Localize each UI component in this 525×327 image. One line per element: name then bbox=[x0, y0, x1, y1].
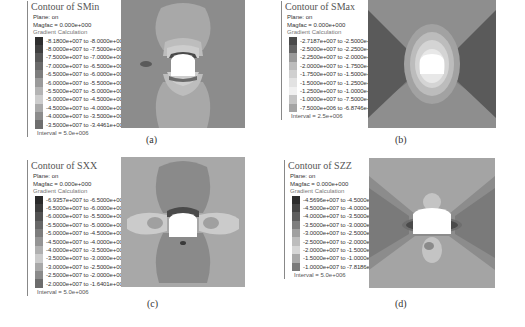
legend-gradient: Gradient Calculation bbox=[31, 29, 123, 37]
legend-gradient: Gradient Calculation bbox=[31, 188, 123, 196]
contour-plot-szz bbox=[369, 158, 495, 288]
legend-range-label: -6.5000e+007 to -6.0000e+007 bbox=[46, 205, 126, 211]
legend-range-label: -2.5000e+007 to -2.0000e+007 bbox=[46, 272, 126, 278]
legend-row: -8.1800e+007 to -8.0000e+007 bbox=[35, 37, 123, 45]
caption-a: (a) bbox=[146, 134, 157, 145]
legend-swatch bbox=[289, 37, 298, 45]
legend-row: -6.0000e+007 to -5.5000e+007 bbox=[35, 212, 123, 220]
legend-swatch bbox=[35, 53, 44, 61]
legend-interval: Interval = 5.0e+006 bbox=[31, 129, 123, 137]
legend-swatch bbox=[289, 87, 298, 95]
legend-title: Contour of SMax bbox=[285, 1, 377, 13]
legend-row: -5.0000e+007 to -4.5000e+007 bbox=[35, 229, 123, 237]
legend-szz: Contour of SZZ Plane: on Magfac = 0.000e… bbox=[284, 160, 380, 279]
legend-swatch bbox=[292, 246, 301, 254]
legend-swatch bbox=[35, 70, 44, 78]
legend-range-label: -6.0000e+007 to -5.5000e+007 bbox=[46, 213, 126, 219]
legend-range-label: -8.1800e+007 to -8.0000e+007 bbox=[46, 38, 126, 44]
legend-range-label: -3.0000e+007 to -2.5000e+007 bbox=[46, 264, 126, 270]
caption-b: (b) bbox=[395, 134, 407, 145]
legend-swatch bbox=[35, 78, 44, 86]
legend-plane: Plane: on bbox=[288, 173, 380, 181]
legend-magfac: Magfac = 0.000e+000 bbox=[31, 181, 123, 189]
legend-swatch bbox=[292, 237, 301, 245]
contour-plot-smax bbox=[368, 0, 496, 128]
legend-swatch bbox=[289, 53, 298, 61]
legend-range-label: -6.5000e+007 to -6.0000e+007 bbox=[46, 71, 126, 77]
legend-swatch bbox=[289, 62, 298, 70]
caption-d: (d) bbox=[395, 298, 407, 309]
legend-range-label: -4.5000e+007 to -4.0000e+007 bbox=[46, 239, 126, 245]
legend-smax: Contour of SMax Plane: on Magfac = 0.000… bbox=[281, 1, 377, 120]
legend-swatch bbox=[292, 263, 301, 271]
legend-row: -2.0000e+007 to -1.6401e+007 bbox=[35, 279, 123, 287]
legend-magfac: Magfac = 0.000e+000 bbox=[31, 22, 123, 30]
legend-range-label: -4.5000e+007 to -4.0000e+007 bbox=[46, 105, 126, 111]
legend-swatch bbox=[35, 221, 44, 229]
legend-swatch bbox=[35, 45, 44, 53]
legend-range-label: -5.0000e+007 to -4.5000e+007 bbox=[46, 96, 126, 102]
legend-row: -4.5000e+007 to -4.0000e+007 bbox=[292, 204, 380, 212]
legend-range-label: -5.5000e+007 to -5.0000e+007 bbox=[46, 222, 126, 228]
legend-swatch bbox=[35, 212, 44, 220]
legend-rows: -6.9357e+007 to -6.5000e+007-6.5000e+007… bbox=[31, 196, 123, 288]
legend-swatch bbox=[292, 196, 301, 204]
legend-gradient: Gradient Calculation bbox=[285, 29, 377, 37]
legend-interval: Interval = 5.0e+006 bbox=[288, 271, 380, 279]
legend-range-label: -3.5000e+007 to -3.4461e+007 bbox=[46, 122, 126, 128]
legend-rows: -8.1800e+007 to -8.0000e+007-8.0000e+007… bbox=[31, 37, 123, 129]
legend-row: -3.5000e+007 to -3.4461e+007 bbox=[35, 120, 123, 128]
contour-plot-smin bbox=[121, 0, 245, 128]
legend-swatch bbox=[35, 95, 44, 103]
legend-row: -5.5000e+007 to -5.0000e+007 bbox=[35, 221, 123, 229]
legend-row: -4.5000e+007 to -4.0000e+007 bbox=[35, 104, 123, 112]
legend-plane: Plane: on bbox=[31, 14, 123, 22]
legend-row: -4.0000e+007 to -3.5000e+007 bbox=[35, 246, 123, 254]
legend-range-label: -4.0000e+007 to -3.5000e+007 bbox=[46, 247, 126, 253]
legend-row: -1.5000e+007 to -1.0000e+007 bbox=[292, 254, 380, 262]
legend-swatch bbox=[35, 37, 44, 45]
legend-swatch bbox=[35, 254, 44, 262]
caption-c: (c) bbox=[147, 298, 158, 309]
legend-interval: Interval = 2.5e+006 bbox=[285, 112, 377, 120]
legend-plane: Plane: on bbox=[285, 14, 377, 22]
legend-row: -4.0000e+007 to -3.5000e+007 bbox=[35, 112, 123, 120]
legend-row: -2.5000e+007 to -2.0000e+007 bbox=[292, 237, 380, 245]
legend-swatch bbox=[289, 78, 298, 86]
legend-row: -2.7187e+007 to -2.5000e+007 bbox=[289, 37, 377, 45]
legend-row: -5.5000e+007 to -5.0000e+007 bbox=[35, 87, 123, 95]
legend-swatch bbox=[289, 70, 298, 78]
legend-row: -6.0000e+007 to -5.5000e+007 bbox=[35, 78, 123, 86]
legend-smin: Contour of SMin Plane: on Magfac = 0.000… bbox=[27, 1, 123, 137]
legend-row: -1.2500e+007 to -1.0000e+007 bbox=[289, 87, 377, 95]
legend-swatch bbox=[35, 237, 44, 245]
legend-row: -5.0000e+007 to -4.5000e+007 bbox=[35, 95, 123, 103]
legend-row: -6.5000e+007 to -6.0000e+007 bbox=[35, 70, 123, 78]
legend-row: -3.5000e+007 to -3.0000e+007 bbox=[292, 221, 380, 229]
legend-rows: -2.7187e+007 to -2.5000e+007-2.5000e+007… bbox=[285, 37, 377, 113]
legend-swatch bbox=[35, 112, 44, 120]
legend-swatch bbox=[292, 229, 301, 237]
legend-row: -3.5000e+007 to -3.0000e+007 bbox=[35, 254, 123, 262]
legend-magfac: Magfac = 0.000e+000 bbox=[285, 22, 377, 30]
legend-swatch bbox=[35, 196, 44, 204]
legend-swatch bbox=[292, 204, 301, 212]
legend-sxx: Contour of SXX Plane: on Magfac = 0.000e… bbox=[27, 160, 123, 296]
legend-swatch bbox=[35, 246, 44, 254]
legend-row: -3.0000e+007 to -2.5000e+007 bbox=[292, 229, 380, 237]
legend-row: -3.0000e+007 to -2.5000e+007 bbox=[35, 263, 123, 271]
legend-row: -2.0000e+007 to -1.5000e+007 bbox=[292, 246, 380, 254]
legend-swatch bbox=[289, 45, 298, 53]
legend-row: -2.5000e+007 to -2.2500e+007 bbox=[289, 45, 377, 53]
legend-swatch bbox=[35, 271, 44, 279]
legend-swatch bbox=[35, 87, 44, 95]
legend-swatch bbox=[292, 212, 301, 220]
legend-row: -7.5000e+007 to -7.0000e+007 bbox=[35, 53, 123, 61]
legend-range-label: -5.0000e+007 to -4.5000e+007 bbox=[46, 230, 126, 236]
legend-title: Contour of SXX bbox=[31, 160, 123, 172]
legend-range-label: -7.5000e+007 to -7.0000e+007 bbox=[46, 54, 126, 60]
legend-row: -1.0000e+007 to -7.5000e+006 bbox=[289, 95, 377, 103]
legend-range-label: -5.5000e+007 to -5.0000e+007 bbox=[46, 88, 126, 94]
legend-row: -7.5000e+006 to -6.8746e+006 bbox=[289, 104, 377, 112]
legend-plane: Plane: on bbox=[31, 173, 123, 181]
